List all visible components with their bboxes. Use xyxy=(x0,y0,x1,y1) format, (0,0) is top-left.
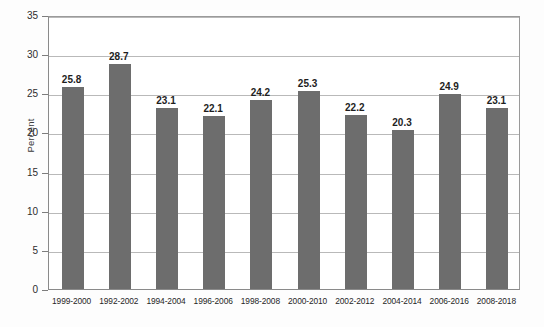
y-axis-tick-label: 30 xyxy=(8,50,38,60)
x-axis-tick-label: 2006-2016 xyxy=(423,296,475,306)
y-axis-tick-label: 15 xyxy=(8,168,38,178)
bar-value-label: 22.2 xyxy=(331,102,379,113)
bar xyxy=(156,108,178,289)
bar-value-label: 28.7 xyxy=(95,51,143,62)
y-axis-tick-label: 5 xyxy=(8,246,38,256)
bar xyxy=(250,100,272,290)
x-axis-tick-label: 2000-2010 xyxy=(282,296,334,306)
bar xyxy=(345,115,367,289)
y-axis-tick-label: 20 xyxy=(8,128,38,138)
x-axis-tick-label: 1999-2000 xyxy=(46,296,98,306)
bar xyxy=(203,116,225,289)
bar-value-label: 20.3 xyxy=(378,117,426,128)
x-axis-tick-label: 1998-2008 xyxy=(234,296,286,306)
x-axis-tick-label: 2004-2014 xyxy=(376,296,428,306)
bar xyxy=(486,108,508,289)
bar-value-label: 25.8 xyxy=(48,74,96,85)
y-axis-tick-label: 0 xyxy=(8,285,38,295)
bar xyxy=(109,64,131,289)
gridline xyxy=(49,17,519,18)
y-axis-tick-mark xyxy=(42,290,48,291)
y-axis-tick-label: 35 xyxy=(8,11,38,21)
bar-value-label: 24.2 xyxy=(236,87,284,98)
bar xyxy=(62,87,84,289)
bar xyxy=(392,130,414,289)
bar-value-label: 24.9 xyxy=(425,81,473,92)
x-axis-tick-label: 2008-2018 xyxy=(470,296,522,306)
bar-chart: Percent 05101520253035 1999-20001992-200… xyxy=(0,0,544,327)
y-axis-tick-label: 25 xyxy=(8,89,38,99)
bar-value-label: 22.1 xyxy=(189,103,237,114)
bar-value-label: 23.1 xyxy=(472,95,520,106)
bar-value-label: 25.3 xyxy=(284,78,332,89)
x-axis-tick-label: 1992-2002 xyxy=(93,296,145,306)
y-axis-tick-label: 10 xyxy=(8,207,38,217)
bar xyxy=(298,91,320,289)
x-axis-tick-label: 1994-2004 xyxy=(140,296,192,306)
bar-value-label: 23.1 xyxy=(142,95,190,106)
bar xyxy=(439,94,461,289)
x-axis-tick-label: 1996-2006 xyxy=(187,296,239,306)
x-axis-tick-label: 2002-2012 xyxy=(329,296,381,306)
